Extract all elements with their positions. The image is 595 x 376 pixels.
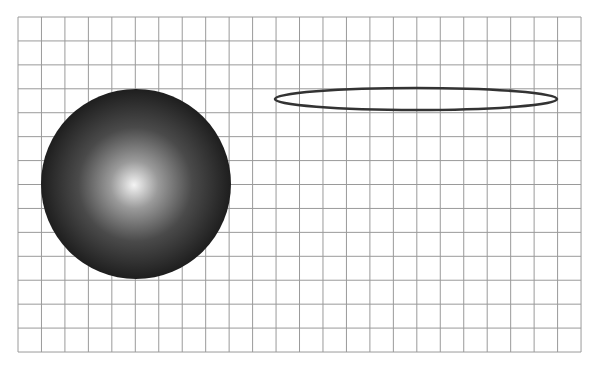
diagram-canvas: [0, 0, 595, 376]
shaded-sphere: [41, 89, 231, 279]
